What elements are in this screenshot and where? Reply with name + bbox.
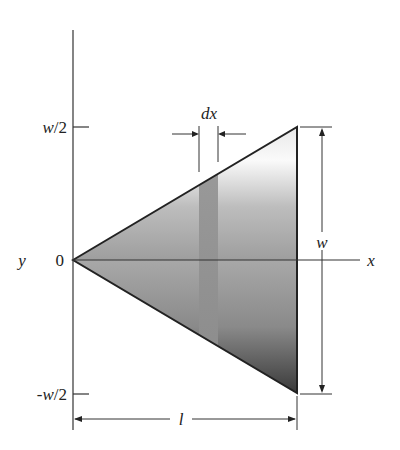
y-axis-label: y bbox=[16, 251, 26, 270]
triangle-plate-diagram: w/2 -w/2 0 y x dx w l bbox=[0, 0, 400, 450]
dx-dimension: dx bbox=[172, 104, 246, 172]
tick-label-top: w/2 bbox=[42, 118, 67, 137]
x-axis-label: x bbox=[366, 251, 375, 270]
tick-label-bottom: -w/2 bbox=[37, 385, 67, 404]
svg-text:l: l bbox=[179, 410, 184, 429]
origin-label: 0 bbox=[56, 251, 65, 270]
svg-text:w: w bbox=[316, 233, 328, 252]
svg-text:dx: dx bbox=[201, 104, 218, 123]
l-dimension: l bbox=[74, 396, 297, 430]
